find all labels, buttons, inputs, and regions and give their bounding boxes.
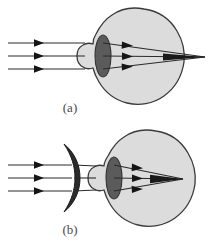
incoming-rays-a — [8, 43, 85, 69]
refracted-ray-arrowheads-a — [122, 41, 133, 70]
panel-a-caption: (a) — [63, 100, 77, 115]
panel-b-caption: (b) — [62, 222, 77, 237]
incoming-ray-arrowheads-b — [34, 161, 44, 195]
panel-a-uncorrected-eye: (a) — [0, 0, 217, 122]
panel-b-corrected-eye: (b) — [0, 122, 217, 244]
figure-root: (a) — [0, 0, 217, 244]
incoming-ray-arrowheads-a — [34, 39, 44, 73]
refracted-ray-arrowheads-b — [132, 164, 143, 193]
